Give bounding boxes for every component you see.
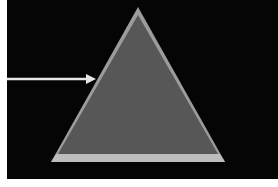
arrow-icon	[7, 74, 96, 84]
triangle-base-band	[51, 154, 225, 162]
pyramid-diagram	[0, 0, 278, 187]
triangle-fill	[58, 15, 218, 154]
